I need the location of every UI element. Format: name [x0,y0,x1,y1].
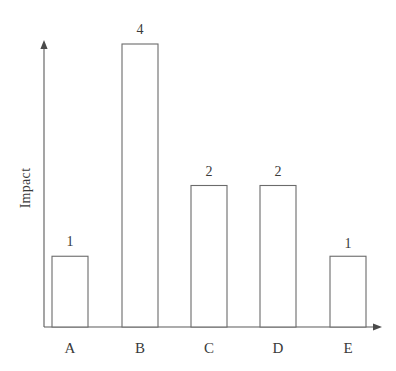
bar-d [260,186,296,328]
x-tick-label-a: A [65,340,76,356]
bar-c [191,186,227,328]
bar-value-label-b: 4 [137,22,144,37]
x-tick-label-c: C [204,340,214,356]
bar-e [330,256,366,327]
bar-b [122,44,158,327]
y-axis-title: Impact [18,168,33,209]
y-axis-arrow-icon [40,40,47,49]
bar-a [52,256,88,327]
x-tick-label-d: D [273,340,284,356]
x-tick-label-e: E [343,340,352,356]
x-tick-label-b: B [135,340,145,356]
bar-value-label-a: 1 [67,234,74,249]
chart-canvas: Impact 1 4 2 2 1 A B C D E [0,0,396,371]
bar-value-label-c: 2 [206,164,213,179]
bar-chart-figure: Impact 1 4 2 2 1 A B C D E [0,0,396,371]
bar-value-label-e: 1 [345,236,352,251]
bar-value-label-d: 2 [275,164,282,179]
x-axis-arrow-icon [373,323,382,330]
